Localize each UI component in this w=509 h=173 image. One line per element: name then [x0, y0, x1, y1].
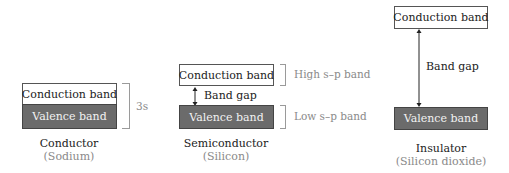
- insulator-title: Insulator: [391, 142, 491, 155]
- insulator-caption: Insulator (Silicon dioxide): [391, 142, 491, 168]
- semiconductor-band-gap-arrow-icon: [190, 87, 200, 107]
- semiconductor-band-gap-label: Band gap: [204, 89, 257, 102]
- conductor-3s-label: 3s: [136, 100, 148, 112]
- semiconductor-high-bracket: [280, 64, 286, 86]
- insulator-conduction-band: Conduction band: [394, 6, 488, 29]
- insulator-band-gap-arrow-icon: [414, 29, 424, 107]
- semiconductor-conduction-band: Conduction band: [179, 64, 274, 86]
- semiconductor-example: (Silicon): [176, 150, 276, 163]
- conductor-3s-bracket: [122, 83, 130, 129]
- conductor-conduction-band: Conduction band: [22, 83, 117, 105]
- conductor-example: (Sodium): [19, 150, 119, 163]
- semiconductor-high-band-label: High s–p band: [294, 68, 371, 80]
- insulator-valence-band: Valence band: [394, 107, 488, 130]
- conductor-title: Conductor: [19, 137, 119, 150]
- conductor-caption: Conductor (Sodium): [19, 137, 119, 163]
- semiconductor-low-bracket: [280, 105, 286, 129]
- insulator-band-gap-label: Band gap: [426, 60, 479, 73]
- semiconductor-valence-band: Valence band: [179, 105, 274, 129]
- conductor-valence-band: Valence band: [22, 104, 117, 129]
- insulator-example: (Silicon dioxide): [391, 155, 491, 168]
- semiconductor-low-band-label: Low s–p band: [294, 110, 367, 122]
- semiconductor-title: Semiconductor: [176, 137, 276, 150]
- semiconductor-caption: Semiconductor (Silicon): [176, 137, 276, 163]
